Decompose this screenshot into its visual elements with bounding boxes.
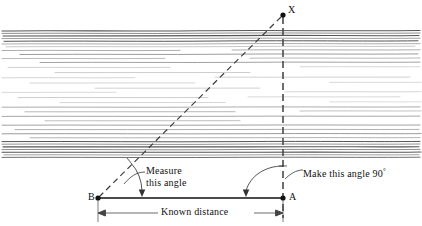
river-bottom-bank bbox=[2, 141, 421, 157]
point-label-a: A bbox=[289, 191, 296, 203]
river-top-bank bbox=[2, 31, 420, 47]
point-label-x: X bbox=[288, 4, 295, 16]
known-distance-label: Known distance bbox=[161, 206, 229, 218]
river-lower-mid bbox=[2, 107, 421, 138]
point-marker-b bbox=[95, 195, 100, 200]
point-marker-a bbox=[280, 195, 285, 200]
degree-symbol: ° bbox=[383, 167, 386, 175]
point-marker-x bbox=[280, 12, 285, 17]
angle-arc-a-arrowhead bbox=[243, 190, 250, 197]
survey-diagram-figure: X A B Measure this angle Make this angle… bbox=[0, 0, 422, 226]
dimension-arrow-right bbox=[276, 210, 283, 216]
river-texture bbox=[2, 31, 421, 158]
right-angle-text: Make this angle 90 bbox=[303, 168, 383, 179]
measure-label-leader bbox=[124, 172, 145, 184]
diagram-canvas bbox=[0, 0, 422, 226]
point-label-b: B bbox=[88, 191, 95, 203]
river-middle bbox=[2, 67, 421, 103]
angle-arc-at-b bbox=[131, 163, 142, 191]
right-angle-annotation: Make this angle 90° bbox=[303, 167, 386, 180]
angle-arc-b-arrowhead bbox=[139, 190, 146, 197]
measure-angle-annotation: Measure this angle bbox=[146, 165, 187, 189]
dimension-arrow-left bbox=[98, 210, 105, 216]
angle-arc-at-a bbox=[246, 166, 283, 191]
measure-label-tick bbox=[127, 158, 131, 163]
measure-angle-line2: this angle bbox=[146, 177, 187, 189]
make-angle-label-leader bbox=[285, 170, 303, 179]
measure-angle-line1: Measure bbox=[146, 165, 182, 176]
river-upper-mid bbox=[2, 50, 420, 63]
